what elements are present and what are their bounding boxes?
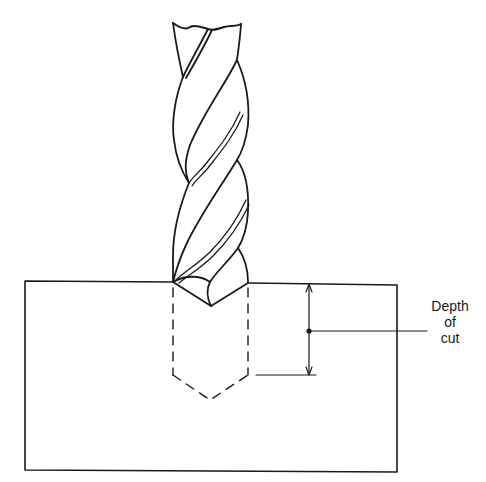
workpiece-block [25,281,397,472]
label-line-of: of [420,314,480,330]
twist-drill [173,23,249,306]
depth-dimension [256,284,427,375]
drill-diagram [0,0,486,482]
label-line-depth: Depth [420,298,480,314]
label-line-cut: cut [420,330,480,346]
depth-of-cut-label: Depth of cut [420,298,480,346]
